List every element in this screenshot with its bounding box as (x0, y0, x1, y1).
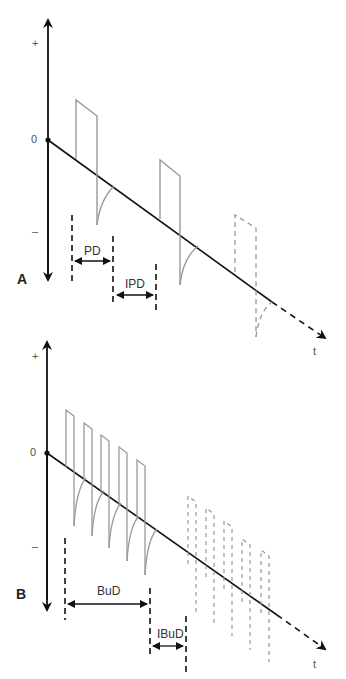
ibud-dimension (153, 616, 186, 672)
figure-canvas (0, 0, 346, 679)
ipd-label: IPD (125, 277, 145, 291)
pulse-a-2 (160, 160, 198, 285)
bud-label: BuD (97, 584, 120, 598)
time-axis-label-a: t (313, 345, 316, 357)
pd-dimension (72, 215, 113, 303)
burst-b-dashed (188, 496, 269, 662)
ibud-label: IBuD (157, 627, 184, 641)
y-axis-plus-label-b: + (32, 350, 38, 362)
panel-label-b: B (16, 586, 26, 602)
y-axis-minus-label-b: – (32, 540, 38, 552)
panel-b (44, 342, 325, 672)
y-axis-zero-label-a: 0 (31, 133, 37, 145)
time-axis-a-extension (272, 302, 325, 338)
burst-b-solid (66, 410, 157, 575)
pulse-a-1 (76, 100, 114, 225)
time-axis-b-extension (277, 615, 325, 649)
time-axis-label-b: t (313, 658, 316, 670)
y-axis-plus-label-a: + (32, 37, 38, 49)
pd-label: PD (84, 244, 101, 258)
panel-a (45, 20, 325, 338)
y-axis-minus-label-a: – (32, 225, 38, 237)
panel-label-a: A (17, 271, 27, 287)
pulse-a-3-dashed (235, 215, 272, 337)
y-axis-zero-label-b: 0 (30, 446, 36, 458)
